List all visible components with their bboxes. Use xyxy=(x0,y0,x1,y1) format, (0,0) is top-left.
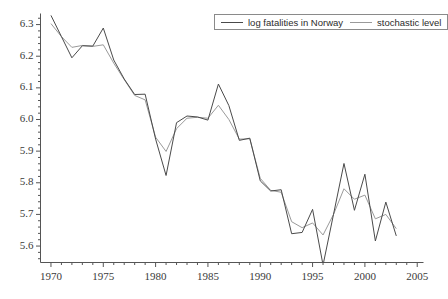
x-axis-tick-label: 2005 xyxy=(395,270,439,282)
x-axis-tick-label: 1985 xyxy=(186,270,230,282)
x-axis-tick-label: 1995 xyxy=(291,270,335,282)
legend-item-level: stochastic level xyxy=(350,17,441,28)
x-axis-tick-label: 1980 xyxy=(134,270,178,282)
legend-label-level: stochastic level xyxy=(377,17,441,28)
chart-legend: log fatalities in Norway stochastic leve… xyxy=(214,14,448,30)
x-axis-tick-label: 1990 xyxy=(238,270,282,282)
x-axis-tick-label: 2000 xyxy=(343,270,387,282)
y-axis-tick-label: 6.1 xyxy=(20,80,34,92)
y-axis-tick-label: 5.6 xyxy=(20,239,34,251)
legend-item-observed: log fatalities in Norway xyxy=(221,17,343,28)
legend-swatch-observed xyxy=(221,22,243,23)
y-axis-tick-label: 6.2 xyxy=(20,49,34,61)
y-axis-tick-label: 5.9 xyxy=(20,144,34,156)
y-axis-tick-label: 5.7 xyxy=(20,207,34,219)
x-axis-tick-label: 1970 xyxy=(29,270,73,282)
legend-label-observed: log fatalities in Norway xyxy=(248,17,343,28)
y-axis-tick-label: 6.0 xyxy=(20,112,34,124)
y-axis-tick-label: 5.8 xyxy=(20,175,34,187)
x-axis-tick-label: 1975 xyxy=(81,270,125,282)
series-line-level xyxy=(51,24,396,235)
series-line-observed xyxy=(51,15,396,265)
legend-swatch-level xyxy=(350,22,372,23)
y-axis-tick-label: 6.3 xyxy=(20,17,34,29)
